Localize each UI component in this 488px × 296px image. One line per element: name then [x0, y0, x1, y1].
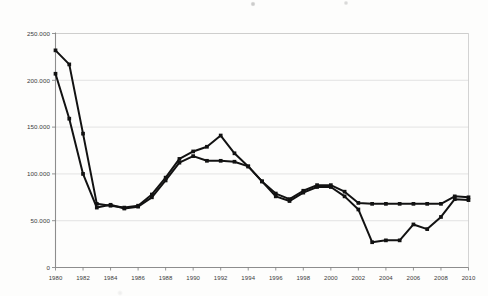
x-axis-tick-label: 1990: [186, 275, 200, 281]
data-series: [54, 72, 471, 244]
data-point-marker: [81, 172, 85, 176]
data-point-marker: [453, 197, 457, 201]
data-point-marker: [136, 205, 140, 209]
data-point-marker: [233, 151, 237, 155]
data-point-marker: [205, 145, 209, 149]
data-point-marker: [439, 202, 443, 206]
chart-figure: 050.000100.000150.000200.000250.000 1980…: [0, 0, 488, 296]
data-point-marker: [260, 180, 264, 184]
data-point-marker: [329, 185, 333, 189]
data-point-marker: [343, 190, 347, 194]
data-series-layer: [54, 49, 471, 245]
data-point-marker: [81, 132, 85, 136]
data-point-marker: [246, 165, 250, 169]
data-point-marker: [398, 202, 402, 206]
line-chart: 050.000100.000150.000200.000250.000 1980…: [0, 0, 488, 296]
data-point-marker: [288, 199, 292, 203]
x-axis-tick-label: 1984: [104, 275, 118, 281]
x-axis-tick-label: 2006: [407, 275, 421, 281]
x-axis-tick-label: 1988: [159, 275, 173, 281]
data-point-marker: [219, 134, 223, 138]
data-point-marker: [54, 72, 58, 76]
x-axis: 1980198219841986198819901992199419961998…: [49, 268, 476, 282]
data-point-marker: [191, 150, 195, 154]
y-axis-tick-label: 250.000: [27, 30, 51, 37]
y-axis-tick-label: 100.000: [27, 170, 51, 177]
data-point-marker: [164, 179, 168, 183]
data-point-marker: [205, 159, 209, 163]
x-axis-tick-label: 1998: [296, 275, 310, 281]
data-point-marker: [219, 159, 223, 163]
data-point-marker: [233, 160, 237, 164]
data-point-marker: [274, 195, 278, 199]
data-point-marker: [315, 185, 319, 189]
data-point-marker: [384, 239, 388, 243]
x-axis-tick-label: 1992: [214, 275, 228, 281]
x-axis-tick-label: 1996: [269, 275, 283, 281]
data-point-marker: [370, 202, 374, 206]
data-point-marker: [109, 203, 113, 207]
data-point-marker: [357, 208, 361, 212]
data-point-marker: [425, 202, 429, 206]
data-point-marker: [467, 198, 471, 202]
data-point-marker: [412, 223, 416, 227]
data-series: [54, 49, 471, 210]
x-axis-tick-label: 2004: [379, 275, 393, 281]
y-axis-tick-label: 0: [46, 264, 50, 271]
x-axis-tick-label: 2002: [351, 275, 365, 281]
x-axis-tick-label: 2010: [462, 275, 476, 281]
data-point-marker: [54, 49, 58, 53]
data-point-marker: [357, 201, 361, 205]
data-point-marker: [425, 227, 429, 231]
data-point-marker: [343, 195, 347, 199]
y-axis: 050.000100.000150.000200.000250.000: [27, 30, 56, 271]
data-point-marker: [191, 154, 195, 158]
x-axis-tick-label: 1986: [131, 275, 145, 281]
data-point-marker: [370, 240, 374, 244]
x-axis-tick-label: 2008: [434, 275, 448, 281]
x-axis-tick-label: 1982: [76, 275, 90, 281]
series-line-2: [56, 74, 469, 242]
y-axis-tick-label: 150.000: [27, 123, 51, 130]
data-point-marker: [412, 202, 416, 206]
y-axis-tick-label: 50.000: [30, 217, 50, 224]
data-point-marker: [178, 161, 182, 165]
x-axis-tick-label: 2000: [324, 275, 338, 281]
gridlines: [56, 34, 469, 221]
data-point-marker: [95, 206, 99, 210]
data-point-marker: [384, 202, 388, 206]
data-point-marker: [398, 239, 402, 243]
data-point-marker: [67, 117, 71, 121]
data-point-marker: [301, 191, 305, 195]
x-axis-tick-label: 1980: [49, 275, 63, 281]
data-point-marker: [439, 215, 443, 219]
y-axis-tick-label: 200.000: [27, 77, 51, 84]
data-point-marker: [67, 63, 71, 67]
data-point-marker: [150, 195, 154, 199]
series-line-1: [56, 50, 469, 207]
x-axis-tick-label: 1994: [241, 275, 255, 281]
data-point-marker: [178, 157, 182, 161]
data-point-marker: [122, 207, 126, 211]
